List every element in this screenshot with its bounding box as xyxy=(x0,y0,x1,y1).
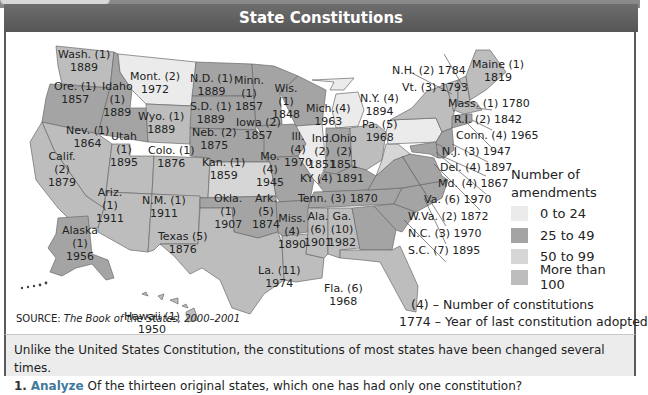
label-nev: Nev. (1)1864 xyxy=(66,124,109,150)
label-ark: Ark.(5)1874 xyxy=(252,192,280,231)
label-mont: Mont. (2)1972 xyxy=(130,70,180,96)
label-minn: Minn.(1)1857 xyxy=(234,74,264,113)
aleutian-dots xyxy=(21,282,48,290)
legend-item: 25 to 49 xyxy=(511,225,594,245)
label-nc: N.C. (3) 1970 xyxy=(408,227,481,240)
label-nm: N.M. (1)1911 xyxy=(142,194,186,220)
label-ga: Ga.(10)1982 xyxy=(328,210,356,249)
label-kan: Kan. (1)1859 xyxy=(202,156,245,182)
map-panel: Wash. (1)1889 Ore. (1)1857 Idaho(1)1889 … xyxy=(4,32,636,334)
legend-swatch xyxy=(511,249,528,264)
label-vt: Vt. (3) 1793 xyxy=(402,81,468,94)
label-nj: N.J. (3) 1947 xyxy=(442,145,511,158)
legend-item: More than 100 xyxy=(511,267,634,287)
label-mich: Mich.(4)1963 xyxy=(306,102,351,128)
intro-text: Unlike the United States Constitution, t… xyxy=(14,341,634,377)
label-nh: N.H. (2) 1784 xyxy=(392,64,466,77)
label-del: Del. (4) 1897 xyxy=(440,161,512,174)
legend-swatch xyxy=(511,206,528,221)
legend-swatch xyxy=(511,228,528,243)
label-calif: Calif.(2)1879 xyxy=(48,150,76,189)
label-mass: Mass. (1) 1780 xyxy=(448,97,530,110)
source-citation: SOURCE: The Book of the States, 2000–200… xyxy=(16,313,240,324)
label-alaska: Alaska(1)1956 xyxy=(62,224,98,263)
label-ky: KY (4) 1891 xyxy=(300,172,364,185)
label-wash: Wash. (1)1889 xyxy=(58,48,110,74)
label-pa: Pa. (5)1968 xyxy=(362,118,397,144)
label-texas: Texas (5)1876 xyxy=(158,230,207,256)
label-colo: Colo. (1)1876 xyxy=(148,144,195,170)
question: 1. Analyze Of the thirteen original stat… xyxy=(14,377,634,395)
label-okla: Okla.(1)1907 xyxy=(214,192,242,231)
legend-item: 0 to 24 xyxy=(511,203,586,223)
key-year: 1774 – Year of last constitution adopted xyxy=(399,314,648,329)
label-ri: R.I. (2) 1842 xyxy=(454,113,522,126)
legend-swatch xyxy=(511,270,528,285)
label-ohio: Ohio(2)1851 xyxy=(330,132,358,171)
label-neb: Neb. (2)1875 xyxy=(192,126,237,152)
label-fla: Fla. (6)1968 xyxy=(324,282,363,308)
label-sc: S.C. (7) 1895 xyxy=(408,244,480,257)
map-title: State Constitutions xyxy=(4,4,638,32)
label-maine: Maine (1)1819 xyxy=(472,58,524,84)
key-constitutions: (4) – Number of constitutions xyxy=(411,297,594,312)
label-ny: N.Y. (4)1894 xyxy=(360,92,399,118)
label-tenn: Tenn. (3) 1870 xyxy=(298,192,378,205)
label-miss: Miss.(4)1890 xyxy=(278,212,306,251)
label-conn: Conn. (4) 1965 xyxy=(456,129,538,142)
label-utah: Utah(1)1895 xyxy=(110,130,138,169)
label-ore: Ore. (1)1857 xyxy=(54,80,96,106)
label-ariz: Ariz.(1)1911 xyxy=(96,186,124,225)
label-nd: N.D. (1)1889 xyxy=(190,72,233,98)
label-la: La. (11)1974 xyxy=(258,264,300,290)
label-wyo: Wyo. (1)1889 xyxy=(138,110,184,136)
label-iowa: Iowa (2)1857 xyxy=(236,116,281,142)
label-md: Md. (4) 1867 xyxy=(438,177,509,190)
legend-title: Number ofamendments xyxy=(511,166,597,202)
question-panel: Unlike the United States Constitution, t… xyxy=(4,334,636,376)
label-va: Va. (6) 1970 xyxy=(424,193,491,206)
label-idaho: Idaho(1)1889 xyxy=(102,80,133,119)
label-sd: S.D. (1)1889 xyxy=(190,100,232,126)
label-wva: W.Va. (2) 1872 xyxy=(408,210,489,223)
label-mo: Mo.(4)1945 xyxy=(256,150,284,189)
